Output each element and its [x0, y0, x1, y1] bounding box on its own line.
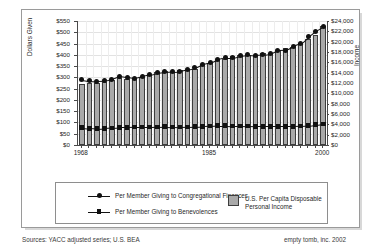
data-point-marker-square — [313, 122, 318, 127]
data-point-marker-circle — [125, 75, 130, 80]
data-point-marker-circle — [291, 44, 296, 49]
data-point-marker-square — [193, 124, 198, 129]
data-point-marker-circle — [170, 69, 175, 74]
data-point-marker-square — [261, 124, 266, 129]
data-point-marker-circle — [238, 53, 243, 58]
legend-label-income-line2: Personal Income — [245, 203, 322, 211]
data-point-marker-square — [276, 124, 281, 129]
data-point-marker-circle — [253, 53, 258, 58]
y-axis-right-tick-label: $2,000 — [331, 132, 350, 138]
x-axis-tick-label: 2000 — [308, 149, 336, 156]
bar — [117, 78, 123, 145]
y-axis-right-tick-label: $12,000 — [331, 80, 353, 86]
y-axis-right-tick-label: $22,000 — [331, 28, 353, 34]
y-axis-left-tick-label: $550 — [22, 18, 70, 24]
y-axis-right-tick-label: $24,000 — [331, 18, 353, 24]
y-axis-right-tick-label: $8,000 — [331, 101, 350, 107]
bar — [207, 63, 213, 145]
legend-item-income: U.S. Per Capita Disposable Personal Inco… — [228, 195, 322, 211]
legend-marker-square-icon — [88, 212, 110, 213]
bar — [185, 70, 191, 145]
bar — [94, 83, 100, 145]
bar — [177, 70, 183, 145]
y-axis-right-label: Income — [353, 45, 360, 66]
data-point-marker-square — [170, 125, 175, 130]
chart-legend: Per Member Giving to Congregational Fina… — [55, 182, 328, 224]
chart-figure: Dollars Given Income $0$50$100$150$200$2… — [0, 0, 367, 251]
data-point-marker-circle — [283, 48, 288, 53]
bar — [275, 50, 281, 145]
legend-item-congregational-finances: Per Member Giving to Congregational Fina… — [88, 192, 248, 200]
data-point-marker-square — [87, 126, 92, 131]
x-axis-tick-label: 1985 — [195, 149, 223, 156]
data-point-marker-square — [162, 124, 167, 129]
legend-label-income: U.S. Per Capita Disposable Personal Inco… — [245, 195, 322, 211]
bar — [162, 71, 168, 145]
data-point-marker-square — [117, 125, 122, 130]
bar — [215, 60, 221, 145]
y-axis-left-tick-label: $450 — [22, 41, 70, 47]
y-axis-left-tick-label: $150 — [22, 108, 70, 114]
data-point-marker-square — [245, 124, 250, 129]
data-point-marker-circle — [306, 34, 311, 39]
y-axis-left-tick-label: $100 — [22, 119, 70, 125]
data-point-marker-circle — [208, 60, 213, 65]
legend-marker-circle-icon — [88, 196, 110, 197]
bar — [283, 48, 289, 145]
legend-label-benevolences: Per Member Giving to Benevolences — [115, 208, 218, 216]
data-point-marker-circle — [132, 76, 137, 81]
data-point-marker-circle — [313, 29, 318, 34]
bar — [200, 64, 206, 145]
bar — [268, 53, 274, 145]
data-point-marker-square — [321, 122, 326, 127]
bar — [245, 55, 251, 145]
data-point-marker-square — [125, 125, 130, 130]
data-point-marker-square — [230, 124, 235, 129]
credit-note: empty tomb, inc. 2002 — [284, 236, 346, 243]
bar — [298, 43, 304, 145]
y-axis-left-tick-label: $200 — [22, 97, 70, 103]
y-axis-left-tick-label: $300 — [22, 74, 70, 80]
y-axis-left-tick-label: $500 — [22, 29, 70, 35]
data-point-marker-circle — [117, 74, 122, 79]
bar — [192, 69, 198, 145]
y-axis-left-tick-label: $0 — [22, 142, 70, 148]
data-point-marker-square — [185, 125, 190, 130]
y-axis-left-tick-label: $50 — [22, 131, 70, 137]
data-point-marker-square — [95, 126, 100, 131]
bar — [320, 26, 326, 145]
data-point-marker-square — [132, 125, 137, 130]
chart-panel: Dollars Given Income $0$50$100$150$200$2… — [21, 9, 360, 228]
bar — [305, 39, 311, 145]
data-point-marker-circle — [223, 55, 228, 60]
data-point-marker-circle — [140, 74, 145, 79]
y-axis-right-tick-label: $18,000 — [331, 49, 353, 55]
data-point-marker-square — [110, 126, 115, 131]
bar — [147, 75, 153, 145]
y-axis-right-tick-label: $14,000 — [331, 70, 353, 76]
data-point-marker-square — [238, 124, 243, 129]
plot-area-wrapper: Dollars Given Income $0$50$100$150$200$2… — [22, 10, 359, 170]
bar — [313, 35, 319, 145]
bar — [139, 77, 145, 145]
y-axis-left-tick-label: $250 — [22, 86, 70, 92]
y-axis-left-tick-label: $350 — [22, 63, 70, 69]
data-point-marker-square — [268, 124, 273, 129]
bar — [222, 59, 228, 145]
y-axis-right-tick-label: $4,000 — [331, 121, 350, 127]
data-point-marker-circle — [321, 24, 326, 29]
data-point-marker-square — [306, 123, 311, 128]
data-point-marker-square — [253, 124, 258, 129]
data-point-marker-square — [79, 125, 84, 130]
data-point-marker-square — [155, 125, 160, 130]
data-point-marker-square — [208, 124, 213, 129]
data-point-marker-square — [200, 124, 205, 129]
bar — [154, 72, 160, 145]
data-point-marker-square — [140, 125, 145, 130]
bar — [87, 83, 93, 145]
legend-item-benevolences: Per Member Giving to Benevolences — [88, 208, 218, 216]
y-axis-right-tick-label: $16,000 — [331, 59, 353, 65]
bar — [253, 55, 259, 145]
data-point-marker-circle — [215, 57, 220, 62]
data-point-marker-square — [102, 126, 107, 131]
